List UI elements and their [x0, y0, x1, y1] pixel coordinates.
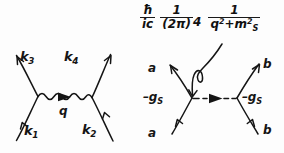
figure-canvas: k3 k4 k1 k2 q ħ ic 1 (2π) 4 1 q2+m: [0, 0, 284, 153]
leg-upper-left-a: [170, 65, 192, 98]
label-upper-left-leg-a: a: [148, 62, 156, 74]
right-diagram-lines: [0, 0, 284, 153]
label-lower-left-leg-a: a: [148, 127, 156, 139]
label-right-vertex-coupling: –gS: [242, 91, 262, 105]
label-upper-right-leg-b: b: [263, 58, 272, 70]
leg-lower-left-a: [172, 98, 192, 134]
label-left-vertex-coupling: –gS: [143, 91, 163, 105]
scalar-propagator-direction-arrowhead: [209, 94, 223, 103]
annotation-curved-arrow-shaft: [192, 44, 222, 95]
label-lower-right-leg-b: b: [263, 124, 272, 136]
